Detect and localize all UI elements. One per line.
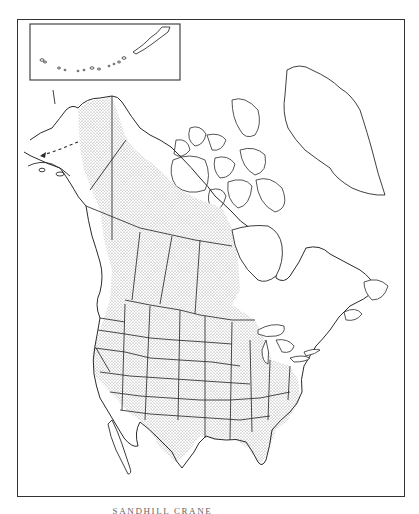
greenland bbox=[284, 66, 385, 195]
range-map bbox=[0, 0, 419, 514]
maritimes bbox=[344, 280, 388, 321]
migration-route bbox=[40, 142, 78, 158]
hudson-bay bbox=[232, 226, 282, 282]
great-lakes bbox=[258, 325, 320, 364]
map-caption: SANDHILL CRANE bbox=[0, 506, 419, 514]
caption-text: SANDHILL CRANE bbox=[113, 506, 213, 514]
aleutian-inset bbox=[30, 24, 180, 80]
arrow-west-icon bbox=[40, 152, 46, 158]
baja-california bbox=[108, 420, 131, 474]
